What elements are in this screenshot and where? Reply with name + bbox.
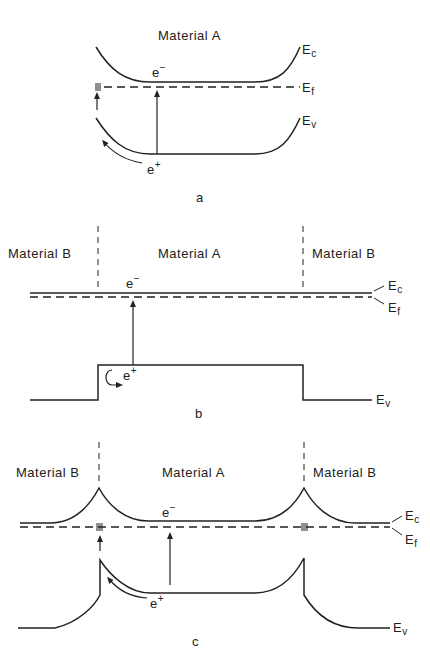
- hole-label-a: e+: [147, 162, 161, 177]
- electron-label-c: e−: [162, 505, 176, 520]
- hole-label-c: e+: [150, 596, 164, 611]
- trap-states-icon-a: [95, 84, 101, 90]
- region-label-material-a: Material A: [158, 28, 221, 43]
- caption-b: b: [195, 406, 203, 421]
- ec-label-a: Ec: [302, 42, 317, 57]
- valence-band-b: [30, 365, 372, 400]
- band-diagram-canvas: [0, 0, 430, 654]
- conduction-band-a: [96, 47, 300, 82]
- hole-drift-arrow-c: [109, 579, 147, 598]
- ef-label-a: Ef: [302, 80, 314, 95]
- hole-turn-arrow-b: [106, 370, 120, 385]
- ev-label-c: Ev: [393, 620, 408, 635]
- electron-label-a: e−: [152, 65, 166, 80]
- conduction-band-c: [20, 488, 390, 523]
- electron-label-b: e−: [126, 276, 140, 291]
- valence-band-a: [96, 118, 300, 154]
- ev-label-a: Ev: [302, 113, 317, 128]
- ec-label-c: Ec: [405, 508, 420, 523]
- region-label-material-b-left: Material B: [16, 465, 80, 480]
- region-label-material-a: Material A: [162, 465, 225, 480]
- region-label-material-a: Material A: [158, 246, 221, 261]
- hole-label-b: e+: [123, 368, 137, 383]
- region-label-material-b-left: Material B: [8, 246, 72, 261]
- valence-band-c: [18, 558, 390, 628]
- region-label-material-b-right: Material B: [313, 465, 377, 480]
- ec-label-b: Ec: [388, 278, 403, 293]
- panel-a-diagram: [95, 47, 300, 163]
- region-label-material-b-right: Material B: [312, 246, 376, 261]
- ev-label-b: Ev: [376, 392, 391, 407]
- ef-label-b: Ef: [388, 300, 400, 315]
- caption-a: a: [196, 190, 204, 205]
- caption-c: c: [192, 634, 199, 649]
- ef-label-c: Ef: [405, 532, 417, 547]
